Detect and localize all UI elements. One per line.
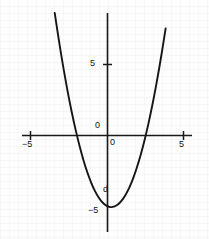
y-axis-label-neg-five: −5 (88, 206, 98, 215)
y-axis-label-five: 5 (90, 59, 95, 68)
parabola-plot-figure: 5 0 0 −5 5 −5 d (0, 0, 209, 239)
x-axis-label-pos-five: 5 (179, 140, 184, 149)
y-axis-label-zero: 0 (95, 121, 100, 130)
annotation-d-label: d (103, 185, 108, 194)
x-axis-label-neg-five: −5 (22, 140, 32, 149)
plot-canvas (0, 0, 209, 239)
parabola-curve (55, 13, 166, 207)
x-axis-label-zero: 0 (110, 138, 115, 147)
